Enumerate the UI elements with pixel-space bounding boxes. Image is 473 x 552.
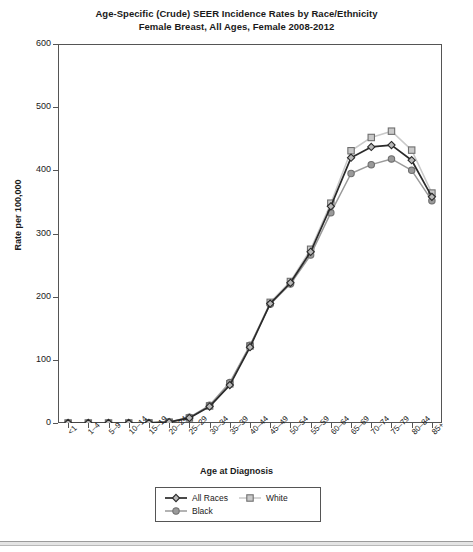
chart-legend: All Races White Black <box>155 487 321 522</box>
y-tick-label: 300 <box>17 228 51 238</box>
y-tick-label: 400 <box>17 164 51 174</box>
chart-plot <box>58 44 442 423</box>
x-axis-title: Age at Diagnosis <box>0 466 473 476</box>
y-axis-title: Rate per 100,000 <box>13 160 23 270</box>
chart-title-line-2: Female Breast, All Ages, Female 2008-201… <box>0 21 473 34</box>
legend-label-black: Black <box>192 506 213 516</box>
legend-item-all-races: All Races <box>164 493 228 503</box>
legend-swatch-white <box>238 493 262 503</box>
y-tick-mark <box>53 360 58 361</box>
data-point <box>408 147 414 153</box>
legend-item-black: Black <box>164 506 213 516</box>
series-white <box>65 128 435 423</box>
y-tick-mark <box>53 297 58 298</box>
y-tick-mark <box>53 234 58 235</box>
series-black <box>65 156 435 423</box>
y-tick-mark <box>53 107 58 108</box>
y-tick-mark <box>53 170 58 171</box>
chart-title-line-1: Age-Specific (Crude) SEER Incidence Rate… <box>0 8 473 21</box>
legend-swatch-black <box>164 506 188 516</box>
y-tick-label: 0 <box>17 417 51 427</box>
data-point <box>408 167 414 173</box>
data-point <box>368 161 374 167</box>
chart-title: Age-Specific (Crude) SEER Incidence Rate… <box>0 8 473 33</box>
y-tick-label: 600 <box>17 38 51 48</box>
y-tick-mark <box>53 44 58 45</box>
y-tick-label: 100 <box>17 354 51 364</box>
legend-item-white: White <box>238 493 288 503</box>
y-tick-mark <box>53 423 58 424</box>
data-point <box>388 128 394 134</box>
footer-divider <box>0 541 473 546</box>
legend-label-all-races: All Races <box>192 493 228 503</box>
legend-label-white: White <box>266 493 288 503</box>
series-line <box>68 159 432 423</box>
data-point <box>348 148 354 154</box>
data-point <box>368 134 374 140</box>
data-point <box>388 156 394 162</box>
series-line <box>68 145 432 423</box>
y-tick-label: 200 <box>17 291 51 301</box>
data-point <box>347 154 354 161</box>
series-line <box>68 131 432 423</box>
data-point <box>368 143 375 150</box>
legend-swatch-all-races <box>164 493 188 503</box>
data-point <box>348 170 354 176</box>
series-all-races <box>65 141 436 423</box>
y-tick-label: 500 <box>17 101 51 111</box>
